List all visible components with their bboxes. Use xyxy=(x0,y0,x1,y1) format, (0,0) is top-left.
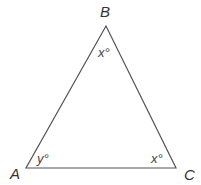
triangle-diagram: B A C x° y° x° xyxy=(0,0,201,185)
angle-label-b: x° xyxy=(97,45,110,60)
angle-label-a: y° xyxy=(36,151,49,166)
angle-label-c: x° xyxy=(150,151,163,166)
vertex-label-c: C xyxy=(184,166,195,183)
vertex-label-b: B xyxy=(100,3,110,20)
vertex-label-a: A xyxy=(9,165,20,182)
